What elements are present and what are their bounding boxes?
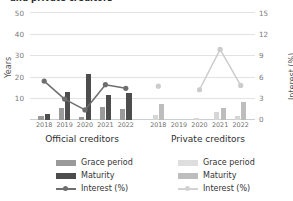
legend-label-maturity-private: Maturity: [203, 171, 236, 180]
y-tick-left-10: 10: [2, 95, 24, 102]
y-tick-right-0: 0: [259, 116, 281, 123]
interest-marker: [42, 79, 47, 84]
line-series-container: [30, 12, 255, 120]
group-label-official: Official creditors: [22, 134, 142, 145]
interest-marker: [238, 83, 243, 88]
interest-marker: [62, 97, 67, 102]
group-label-private: Private creditors: [148, 134, 268, 145]
legend-official: Grace period Maturity Interest (%): [56, 156, 133, 195]
legend-private: Grace period Maturity Interest (%): [178, 156, 255, 195]
interest-line-segment: [105, 85, 125, 89]
legend-item-grace-period-official[interactable]: Grace period: [56, 156, 133, 169]
legend-label-maturity-official: Maturity: [81, 171, 114, 180]
interest-marker: [123, 86, 128, 91]
interest-marker: [218, 47, 223, 52]
legend-label-grace-period-official: Grace period: [81, 158, 133, 167]
y-tick-right-9: 9: [259, 52, 281, 59]
y-tick-left-40: 40: [2, 31, 24, 38]
x-tick-2022: 2022: [228, 122, 254, 129]
chart-title: and private creditors: [10, 0, 290, 3]
legend-swatch-grace-period-private: [178, 160, 198, 166]
chart-figure: and private creditors Years Interest (%)…: [0, 0, 293, 201]
legend-swatch-maturity-official: [56, 173, 76, 179]
y-tick-left-50: 50: [2, 10, 24, 17]
interest-marker: [156, 84, 161, 89]
plot-area: [30, 12, 255, 120]
legend-label-interest-private: Interest (%): [203, 184, 250, 193]
y-tick-right-3: 3: [259, 95, 281, 102]
interest-line-segment: [65, 99, 85, 110]
legend-item-interest-official[interactable]: Interest (%): [56, 182, 133, 195]
interest-line-segment: [220, 49, 241, 85]
interest-marker: [103, 82, 108, 87]
y-tick-left-20: 20: [2, 74, 24, 81]
interest-marker: [197, 87, 202, 92]
legend-swatch-maturity-private: [178, 173, 198, 179]
interest-line-segment: [85, 85, 105, 110]
x-tick-2022: 2022: [113, 122, 139, 129]
legend-item-interest-private[interactable]: Interest (%): [178, 182, 255, 195]
legend-label-grace-period-private: Grace period: [203, 158, 255, 167]
legend-label-interest-official: Interest (%): [81, 184, 128, 193]
legend-swatch-grace-period-official: [56, 160, 76, 166]
y-tick-right-12: 12: [259, 31, 281, 38]
legend-item-grace-period-private[interactable]: Grace period: [178, 156, 255, 169]
legend-item-maturity-official[interactable]: Maturity: [56, 169, 133, 182]
y-axis-right-label: Interest (%): [288, 53, 293, 100]
y-tick-right-6: 6: [259, 74, 281, 81]
legend-line-interest-official: [56, 186, 76, 192]
interest-line-segment: [44, 81, 64, 99]
interest-line-segment: [200, 49, 221, 89]
y-tick-left-30: 30: [2, 52, 24, 59]
legend-line-interest-private: [178, 186, 198, 192]
legend-item-maturity-private[interactable]: Maturity: [178, 169, 255, 182]
interest-marker: [82, 107, 87, 112]
y-tick-right-15: 15: [259, 10, 281, 17]
